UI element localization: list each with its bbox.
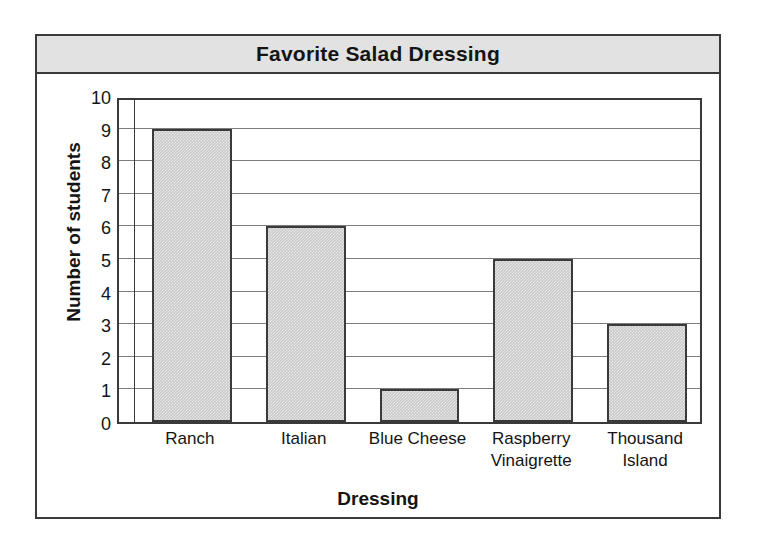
chart-card: Favorite Salad Dressing Number of studen… — [35, 34, 721, 519]
bar — [266, 226, 346, 422]
x-axis-tick-label-line: Raspberry — [474, 428, 588, 450]
x-axis-tick-labels: RanchItalianBlue CheeseRaspberryVinaigre… — [117, 428, 702, 482]
y-axis-tick-label: 2 — [75, 350, 111, 368]
bar — [152, 129, 232, 422]
y-axis-tick-label: 9 — [75, 122, 111, 140]
x-axis-tick-label: RaspberryVinaigrette — [474, 428, 588, 473]
y-axis-tick-label: 0 — [75, 415, 111, 433]
y-axis-tick-labels: 109876543210 — [75, 88, 111, 414]
bars-layer — [119, 100, 700, 422]
y-axis-tick-label: 4 — [75, 285, 111, 303]
x-axis-tick-label-line: Blue Cheese — [361, 428, 475, 450]
plot-area — [117, 98, 702, 424]
bar — [493, 259, 573, 422]
x-axis-tick-label-line: Italian — [247, 428, 361, 450]
x-axis-tick-label: Blue Cheese — [361, 428, 475, 450]
chart-title: Favorite Salad Dressing — [256, 42, 500, 66]
y-axis-tick-label: 7 — [75, 187, 111, 205]
y-axis-tick-label: 6 — [75, 219, 111, 237]
x-axis-tick-label: ThousandIsland — [588, 428, 702, 473]
y-axis-tick-label: 1 — [75, 382, 111, 400]
x-axis-tick-label: Ranch — [133, 428, 247, 450]
bar — [380, 389, 460, 422]
x-axis-tick-label-line: Vinaigrette — [474, 450, 588, 472]
y-axis-tick-label: 3 — [75, 317, 111, 335]
x-axis-tick-label-line: Island — [588, 450, 702, 472]
x-axis-title: Dressing — [37, 488, 719, 510]
x-axis-tick-label: Italian — [247, 428, 361, 450]
chart-title-banner: Favorite Salad Dressing — [37, 36, 719, 74]
y-axis-tick-label: 8 — [75, 154, 111, 172]
x-axis-tick-label-line: Thousand — [588, 428, 702, 450]
y-axis-tick-label: 5 — [75, 252, 111, 270]
bar — [607, 324, 687, 422]
y-axis-tick-label: 10 — [75, 89, 111, 107]
x-axis-tick-label-line: Ranch — [133, 428, 247, 450]
